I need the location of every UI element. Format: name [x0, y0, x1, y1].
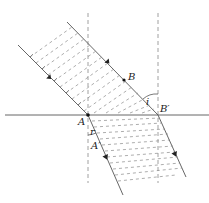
arrow-icon-refracted-left	[102, 154, 110, 161]
incident-wavefronts	[30, 27, 154, 113]
label-angle-i: i	[146, 96, 149, 107]
label-B: B	[127, 71, 135, 82]
incident-ray-left	[18, 45, 88, 115]
refraction-diagram: A B B′ A′ i r	[0, 0, 209, 203]
label-B-prime: B′	[159, 103, 170, 114]
refracted-wavefronts	[92, 118, 182, 181]
label-A: A	[77, 116, 85, 127]
incident-ray-right	[67, 22, 158, 115]
point-A	[86, 113, 90, 117]
label-A-prime: A′	[90, 140, 101, 151]
point-B	[122, 78, 125, 81]
arrow-icon-incident-left	[46, 74, 53, 81]
